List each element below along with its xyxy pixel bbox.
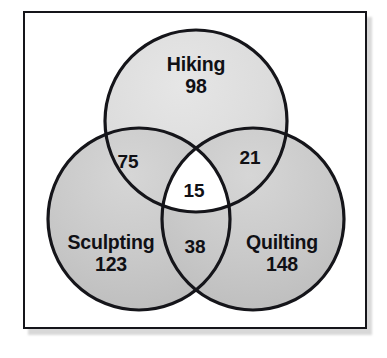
venn-circles-svg [23,11,367,329]
venn-diagram-figure: Hiking 98 Sculpting 123 Quilting 148 75 … [0,0,387,358]
